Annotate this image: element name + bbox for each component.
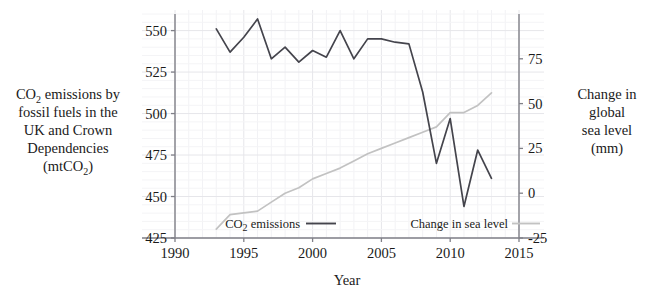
right-tick-label-25: 25	[528, 140, 543, 156]
left-tick-label-550: 550	[145, 23, 167, 39]
right-axis-title-line-1: Change in	[577, 86, 637, 102]
x-tick-label-1990: 1990	[161, 245, 190, 261]
right-axis-title-line-3: sea level	[582, 122, 632, 138]
chart-legend: CO2 emissions Change in sea level	[225, 217, 540, 233]
left-tick-label-500: 500	[145, 106, 167, 122]
legend-label-change-in-sea-level: Change in sea level	[410, 217, 508, 231]
x-axis-title: Year	[334, 272, 361, 288]
right-tick-label--25: -25	[528, 230, 547, 246]
left-axis-title-line-1: CO2 emissions by	[16, 86, 121, 105]
left-axis-title-line-5: (mtCO2)	[43, 158, 93, 177]
right-axis-title-line-4: (mm)	[591, 140, 623, 157]
left-tick-label-450: 450	[145, 189, 167, 205]
x-tick-label-2010: 2010	[436, 245, 465, 261]
legend-label-co2-emissions: CO2 emissions	[225, 217, 300, 233]
left-tick-label-475: 475	[145, 147, 167, 163]
right-axis-title-line-2: global	[589, 104, 625, 120]
x-tick-label-2000: 2000	[298, 245, 327, 261]
left-tick-label-425: 425	[145, 230, 167, 246]
x-tick-label-1995: 1995	[229, 245, 258, 261]
x-tick-label-2005: 2005	[367, 245, 396, 261]
axis-ticks	[171, 31, 523, 242]
left-axis-title-line-2: fossil fuels in the	[18, 104, 117, 120]
chart-container: 1990199520002005201020154254504755005255…	[0, 0, 652, 295]
right-tick-label-0: 0	[528, 185, 535, 201]
left-axis-title: CO2 emissions by fossil fuels in the UK …	[16, 86, 121, 177]
right-axis-title: Change in global sea level (mm)	[577, 86, 637, 157]
right-tick-label-75: 75	[528, 51, 543, 67]
co2-sea-level-line-chart: 1990199520002005201020154254504755005255…	[0, 0, 652, 295]
left-axis-title-line-3: UK and Crown	[24, 122, 113, 138]
left-tick-label-525: 525	[145, 64, 167, 80]
gridlines	[142, 10, 544, 238]
left-axis-title-line-4: Dependencies	[27, 140, 109, 156]
right-tick-label-50: 50	[528, 96, 543, 112]
x-tick-label-2015: 2015	[505, 245, 534, 261]
